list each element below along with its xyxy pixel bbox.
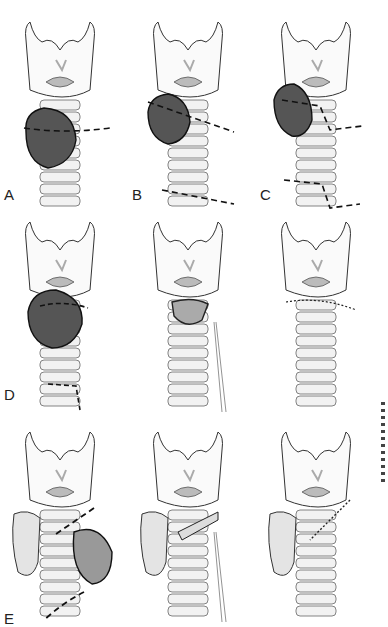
larynx-trachea-illustration — [256, 410, 380, 622]
clipped-edge-text — [381, 402, 385, 482]
panel-e3 — [256, 410, 376, 610]
panel-e2 — [128, 410, 248, 610]
panel-e: E — [0, 410, 120, 610]
panel-c: C — [256, 0, 376, 200]
larynx-trachea-illustration — [0, 200, 124, 412]
panel-b: B — [128, 0, 248, 200]
panel-d3 — [256, 200, 376, 400]
larynx-trachea-illustration — [0, 410, 124, 622]
panel-a: A — [0, 0, 120, 200]
larynx-trachea-illustration — [256, 0, 380, 212]
panel-label: E — [4, 610, 14, 627]
panel-d2 — [128, 200, 248, 400]
larynx-trachea-illustration — [256, 200, 380, 412]
larynx-trachea-illustration — [128, 0, 252, 212]
panel-label: D — [4, 386, 15, 403]
larynx-trachea-illustration — [128, 410, 252, 622]
panel-d: D — [0, 200, 120, 400]
larynx-trachea-illustration — [128, 200, 252, 412]
larynx-trachea-illustration — [0, 0, 124, 212]
